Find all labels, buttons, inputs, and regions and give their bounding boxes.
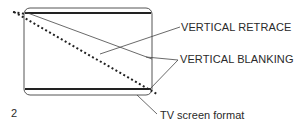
blanking-leader-bottom xyxy=(149,60,178,90)
retrace-leader xyxy=(100,27,180,54)
label-vertical-retrace: VERTICAL RETRACE xyxy=(181,21,291,33)
label-vertical-blanking: VERTICAL BLANKING xyxy=(180,53,294,65)
figure-caption: TV screen format xyxy=(160,109,244,121)
scan-line xyxy=(25,12,152,59)
tv-screen-format-diagram: VERTICAL RETRACE VERTICAL BLANKING 2 TV … xyxy=(0,0,299,132)
figure-number: 2 xyxy=(11,107,17,119)
diagram-drawing xyxy=(0,0,299,132)
caption-leader xyxy=(137,95,157,114)
